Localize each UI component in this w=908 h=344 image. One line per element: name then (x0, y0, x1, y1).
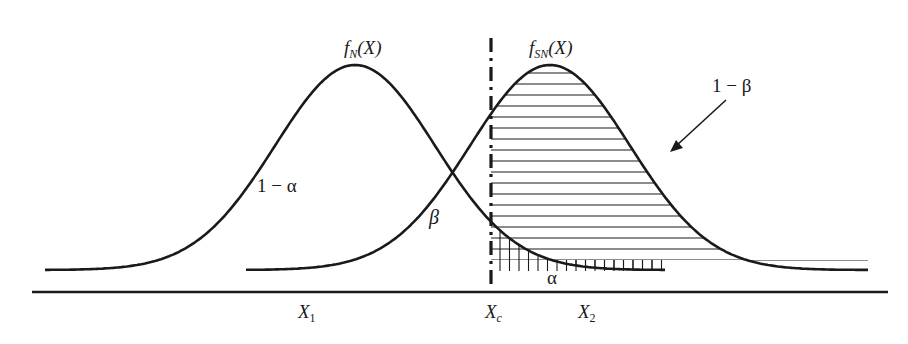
xc-label: Xc (484, 301, 503, 325)
one-minus-alpha-label: 1 − α (257, 175, 297, 196)
diagram-canvas: fN(X) fSN(X) 1 − β 1 − α β α X1 Xc X2 (0, 0, 908, 344)
x1-label: X1 (297, 301, 316, 325)
x2-label: X2 (577, 301, 596, 325)
signal-noise-curve-label: fSN(X) (529, 37, 573, 61)
one-minus-beta-label: 1 − β (712, 75, 751, 96)
beta-label: β (428, 206, 439, 229)
noise-curve-label: fN(X) (344, 37, 382, 61)
signal-noise-distribution-curve (246, 65, 868, 270)
noise-distribution-curve (45, 65, 665, 270)
distribution-figure: fN(X) fSN(X) 1 − β 1 − α β α X1 Xc X2 (0, 0, 908, 344)
hatch-one-minus-beta (491, 62, 868, 260)
alpha-label: α (547, 267, 557, 288)
one-minus-beta-arrow (676, 100, 726, 146)
